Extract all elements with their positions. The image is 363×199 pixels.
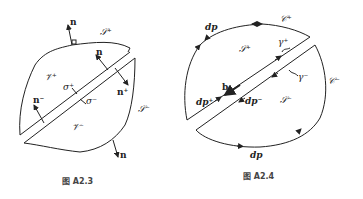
n-plus-arrow [115,68,128,85]
slit-lower-line-gamma-minus [196,45,315,130]
figure-a2-4-labels: dp 𝒞⁺ 𝒮⁺ γ⁺ γ⁻ 𝒞⁻ b dp⁺ dp⁻ 𝒮⁻ dp 图 A2.4 [196,14,340,181]
label-gamma-minus: γ⁻ [298,72,308,82]
n-top-arrow [68,25,72,45]
figure-a2-4 [185,24,326,147]
label-dp-plus: dp⁺ [196,97,214,107]
label-sigma-plus: σ⁺ [63,82,74,92]
label-s-plus-region: 𝒮⁺ [239,44,251,54]
label-b: b [222,82,228,92]
label-dp-minus: dp⁻ [245,96,263,106]
right-angle-mark [72,40,76,44]
label-dp-bottom: dp [250,150,263,160]
gamma-minus-leader [289,70,298,76]
dp-plus-arrow [215,97,221,101]
figure-a2-3-labels: n 𝒮⁺ n 𝒱⁺ σ⁺ n⁺ n⁻ σ⁻ 𝒮⁻ 𝒱⁻ n 图 A2.3 [33,17,150,186]
label-s-minus-region: 𝒮⁻ [280,95,292,105]
label-n-cut: n [96,47,103,57]
label-c-minus: 𝒞⁻ [328,76,340,86]
label-s-plus: 𝒮⁺ [100,27,112,37]
n-bottom-arrow [113,140,118,157]
label-sigma-minus: σ⁻ [86,96,97,106]
caption-a2-4: 图 A2.4 [243,172,275,181]
label-n-bottom: n [120,150,127,160]
label-gamma-plus: γ⁺ [278,37,288,47]
label-n-top: n [70,17,77,27]
label-s-minus: 𝒮⁻ [138,104,150,114]
label-c-plus: 𝒞⁺ [280,14,292,24]
gamma-plus-arrow [275,56,281,60]
label-n-minus: n⁻ [33,95,45,105]
label-v-plus: 𝒱⁺ [45,72,57,82]
label-v-minus: 𝒱⁻ [72,122,84,132]
n-cut-arrow [96,55,108,70]
caption-a2-3: 图 A2.3 [62,177,93,186]
label-dp-top: dp [205,22,218,32]
dp-bottom-arrow [237,146,243,147]
c-minus-arrow [298,129,301,132]
diagram-canvas: n 𝒮⁺ n 𝒱⁺ σ⁺ n⁺ n⁻ σ⁻ 𝒮⁻ 𝒱⁻ n 图 A2.3 [0,0,363,199]
label-n-plus: n⁺ [117,87,129,97]
